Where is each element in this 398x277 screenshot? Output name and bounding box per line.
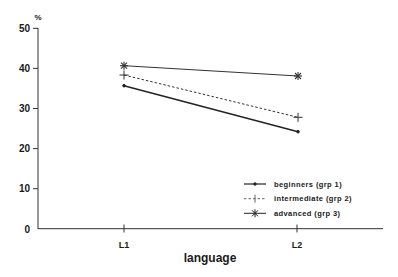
series-advanced [120,62,302,80]
y-tick-label: 30 [19,103,31,114]
dot-marker [123,84,126,87]
series-intermediate [120,71,303,122]
legend-item-advanced [244,209,266,217]
line-chart: 50 40 30 20 10 0 % L1 L2 language [0,0,398,277]
dot-marker [297,130,300,133]
y-axis-label: % [34,13,41,22]
legend: beginners (grp 1) intermediate (grp 2) a… [244,180,352,218]
x-axis-title: language [184,251,237,265]
asterisk-marker [120,62,128,70]
x-tick-label: L1 [119,240,130,250]
y-tick-label: 20 [19,143,31,154]
y-tick-label: 40 [19,63,31,74]
series-beginners [123,84,300,133]
legend-item-intermediate [244,195,266,203]
y-axis [33,28,38,229]
legend-item-beginners [244,183,266,185]
x-tick-label: L2 [292,240,303,250]
plus-marker [294,113,303,122]
asterisk-marker [294,72,302,80]
legend-label: beginners (grp 1) [274,180,342,189]
legend-label: intermediate (grp 2) [274,194,352,203]
y-tick-label: 10 [19,183,31,194]
x-axis [38,225,383,233]
y-tick-label: 50 [19,23,31,34]
y-tick-label: 0 [24,224,30,235]
plus-marker [120,71,129,80]
legend-label: advanced (grp 3) [274,209,341,218]
